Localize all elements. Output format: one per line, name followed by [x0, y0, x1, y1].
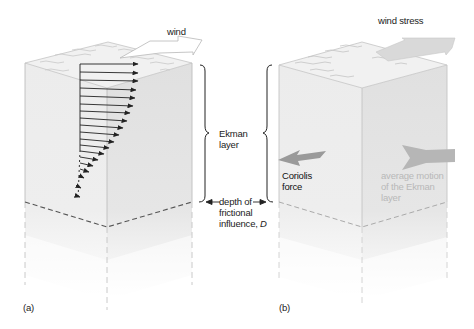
depth-symbol: D	[260, 218, 267, 229]
avg-line1: average motion	[381, 170, 444, 181]
ekman-layer-label: Ekman layer	[219, 128, 248, 150]
coriolis-line2: force	[282, 181, 312, 192]
coriolis-line1: Coriolis	[282, 170, 312, 181]
avg-line2: of the Ekman	[381, 181, 444, 192]
panel-b-label: (b)	[279, 302, 290, 313]
panel-a-label: (a)	[23, 302, 34, 313]
coriolis-force-label: Coriolis force	[282, 170, 312, 192]
ekman-label-line2: layer	[219, 139, 248, 150]
wind-label: wind	[167, 26, 186, 37]
depth-line3: influence, D	[219, 218, 267, 229]
ekman-label-line1: Ekman	[219, 128, 248, 139]
wind-arrow	[120, 36, 202, 58]
avg-line3: layer	[381, 192, 444, 203]
depth-line2: frictional	[219, 207, 267, 218]
wind-stress-label: wind stress	[378, 15, 423, 26]
ekman-diagram	[0, 0, 474, 329]
depth-line1: depth of	[219, 196, 267, 207]
average-motion-label: average motion of the Ekman layer	[381, 170, 444, 203]
depth-of-frictional-influence-label: depth of frictional influence, D	[219, 196, 267, 229]
panel-a-cube	[25, 36, 202, 329]
